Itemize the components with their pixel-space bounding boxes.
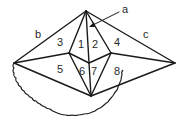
fracture-facet-diagram: a b c 1 2 3 4 5 6 7 8 [0,0,184,136]
label-region-5: 5 [57,63,63,75]
label-region-7: 7 [91,65,97,77]
label-region-3: 3 [57,36,63,48]
label-region-6: 6 [79,65,85,77]
label-region-1: 1 [78,38,84,50]
label-c: c [143,28,149,40]
label-b: b [35,28,41,40]
diagram-canvas: a b c 1 2 3 4 5 6 7 8 [0,0,184,136]
label-region-4: 4 [114,36,120,48]
edge-left-inner-left [14,53,69,63]
label-region-8: 8 [114,65,120,77]
edge-apex-center [86,11,89,63]
edge-c [86,11,175,63]
arrow-a [89,12,119,27]
label-a: a [122,3,129,15]
label-region-2: 2 [92,38,98,50]
edge-apex-inner-right [86,11,111,53]
